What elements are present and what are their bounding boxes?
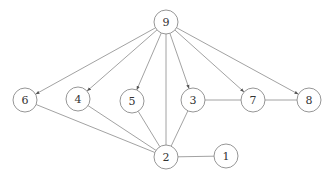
node-7: 7 (241, 88, 265, 112)
node-label: 1 (223, 150, 230, 163)
node-label: 9 (163, 16, 170, 29)
edge-9-7 (175, 30, 244, 92)
node-label: 8 (306, 94, 313, 107)
node-label: 6 (22, 94, 29, 107)
node-label: 3 (190, 94, 197, 107)
edge-4-2 (88, 106, 156, 151)
edge-5-2 (138, 111, 160, 146)
graph-diagram: 964537821 (0, 0, 330, 179)
node-5: 5 (120, 89, 144, 113)
node-6: 6 (13, 88, 37, 112)
node-2: 2 (154, 145, 178, 169)
nodes-layer: 964537821 (13, 10, 321, 169)
node-label: 7 (250, 94, 257, 107)
node-9: 9 (154, 10, 178, 34)
edge-9-3 (170, 33, 189, 88)
edge-3-2 (171, 111, 188, 146)
edge-2-1 (178, 156, 214, 157)
edge-9-5 (137, 33, 162, 90)
edge-9-8 (177, 28, 299, 95)
edge-9-6 (36, 28, 156, 94)
edge-9-4 (87, 30, 157, 91)
node-4: 4 (66, 87, 90, 111)
node-label: 5 (129, 95, 136, 108)
node-label: 2 (163, 151, 170, 164)
node-label: 4 (75, 93, 82, 106)
node-1: 1 (214, 144, 238, 168)
node-3: 3 (181, 88, 205, 112)
node-8: 8 (297, 88, 321, 112)
